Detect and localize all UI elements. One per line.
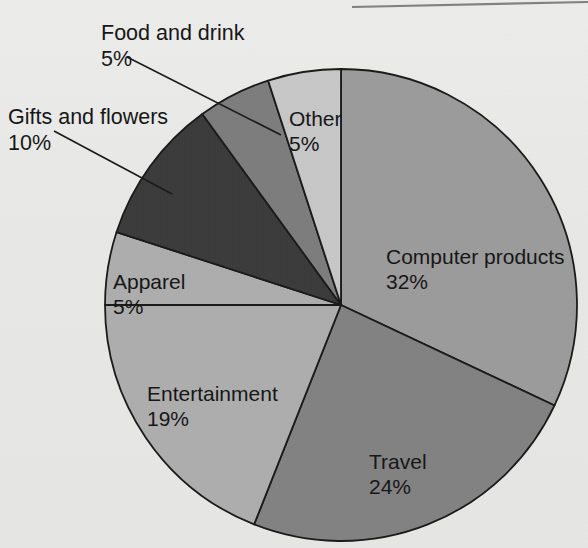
slice-label-gifts-and-flowers: Gifts and flowers [8,105,168,129]
slice-label-computer-products: Computer products [386,245,565,268]
slice-label-apparel: Apparel [113,270,185,293]
slice-label-entertainment: Entertainment [147,382,278,405]
pie-chart: Computer products32%Travel24%Entertainme… [0,0,588,548]
slice-value-other: 5% [289,132,319,155]
slice-value-apparel: 5% [113,295,143,318]
pie-slices [105,69,577,541]
slice-value-travel: 24% [369,475,411,498]
slice-label-travel: Travel [369,450,427,473]
slice-value-entertainment: 19% [147,407,189,430]
slice-label-food-and-drink: Food and drink [101,21,245,45]
slice-value-food-and-drink: 5% [101,47,132,71]
page-edge-artifact [352,2,588,7]
slice-value-computer-products: 32% [386,270,428,293]
slice-value-gifts-and-flowers: 10% [8,131,51,155]
slice-label-other: Other [289,107,342,130]
page-background: Computer products32%Travel24%Entertainme… [0,0,588,548]
